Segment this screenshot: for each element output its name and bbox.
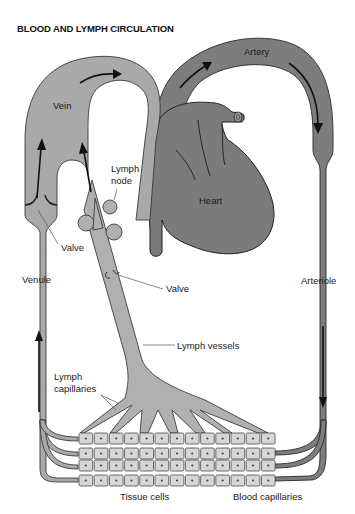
cell-nucleus xyxy=(237,452,239,454)
lymph-node xyxy=(103,200,117,214)
aorta-opening xyxy=(234,112,242,122)
cell-nucleus xyxy=(267,437,269,439)
cell-nucleus xyxy=(176,452,178,454)
cell-nucleus xyxy=(115,452,117,454)
cell-nucleus xyxy=(222,452,224,454)
label-lymph-node-line2: node xyxy=(111,175,132,186)
label-venule: Venule xyxy=(22,274,51,285)
label-heart: Heart xyxy=(199,195,223,206)
cell-nucleus xyxy=(100,452,102,454)
cell-nucleus xyxy=(252,479,254,481)
cell-nucleus xyxy=(115,464,117,466)
cell-nucleus xyxy=(100,479,102,481)
lymph-node xyxy=(106,224,122,240)
cell-nucleus xyxy=(191,464,193,466)
label-lymph-vessels: Lymph vessels xyxy=(177,340,240,351)
cell-nucleus xyxy=(161,464,163,466)
cell-nucleus xyxy=(237,437,239,439)
cell-nucleus xyxy=(267,479,269,481)
cell-nucleus xyxy=(85,464,87,466)
label-vein: Vein xyxy=(53,100,72,111)
diagram-title: BLOOD AND LYMPH CIRCULATION xyxy=(17,23,174,34)
cell-nucleus xyxy=(267,464,269,466)
cell-nucleus xyxy=(85,437,87,439)
cell-nucleus xyxy=(191,479,193,481)
cell-nucleus xyxy=(161,437,163,439)
cell-nucleus xyxy=(85,479,87,481)
label-valve-vein: Valve xyxy=(61,242,84,253)
cell-nucleus xyxy=(252,452,254,454)
cell-nucleus xyxy=(176,437,178,439)
heart xyxy=(149,102,274,256)
cell-nucleus xyxy=(130,437,132,439)
label-blood-capillaries: Blood capillaries xyxy=(233,491,302,502)
tissue-cell-grid xyxy=(79,433,275,486)
cell-nucleus xyxy=(206,479,208,481)
vein xyxy=(25,56,160,482)
cell-nucleus xyxy=(206,452,208,454)
cell-nucleus xyxy=(222,464,224,466)
cell-nucleus xyxy=(130,464,132,466)
cell-nucleus xyxy=(222,479,224,481)
cell-nucleus xyxy=(161,452,163,454)
cell-nucleus xyxy=(237,479,239,481)
cell-nucleus xyxy=(146,437,148,439)
cell-nucleus xyxy=(85,452,87,454)
cell-nucleus xyxy=(130,452,132,454)
cell-nucleus xyxy=(237,464,239,466)
cell-nucleus xyxy=(191,452,193,454)
cell-nucleus xyxy=(222,437,224,439)
cell-nucleus xyxy=(146,452,148,454)
cell-nucleus xyxy=(191,437,193,439)
label-artery: Artery xyxy=(244,46,270,57)
label-lymph-capillaries-line1: Lymph xyxy=(54,371,82,382)
label-arteriole: Arteriole xyxy=(301,275,336,286)
label-tissue-cells: Tissue cells xyxy=(120,491,170,502)
cell-nucleus xyxy=(161,479,163,481)
cell-nucleus xyxy=(252,464,254,466)
label-valve-lymph: Valve xyxy=(166,283,189,294)
cell-nucleus xyxy=(115,479,117,481)
circulation-diagram: BLOOD AND LYMPH CIRCULATION xyxy=(0,0,355,514)
cell-nucleus xyxy=(130,479,132,481)
cell-nucleus xyxy=(100,464,102,466)
cell-nucleus xyxy=(176,464,178,466)
cell-nucleus xyxy=(206,437,208,439)
cell-nucleus xyxy=(146,464,148,466)
label-lymph-capillaries-line2: capillaries xyxy=(54,383,96,394)
cell-nucleus xyxy=(100,437,102,439)
cell-nucleus xyxy=(115,437,117,439)
cell-nucleus xyxy=(146,479,148,481)
cell-nucleus xyxy=(252,437,254,439)
cell-nucleus xyxy=(267,452,269,454)
cell-nucleus xyxy=(206,464,208,466)
lymph-node xyxy=(78,215,94,231)
cell-nucleus xyxy=(176,479,178,481)
label-lymph-node-line1: Lymph xyxy=(111,163,139,174)
